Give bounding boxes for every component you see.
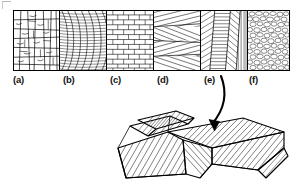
panel-d-cross-stratification[interactable] xyxy=(154,11,201,70)
block-diagram-drawing xyxy=(108,104,293,189)
panel-f-conglomerate[interactable] xyxy=(248,11,289,70)
scan-artifact xyxy=(2,1,11,9)
pattern-panel-strip xyxy=(13,10,290,71)
panel-f-pattern xyxy=(248,11,289,70)
panel-label-c: (c) xyxy=(110,74,121,85)
panel-c-pattern xyxy=(107,11,153,70)
panel-label-d: (d) xyxy=(157,74,169,85)
panel-d-pattern xyxy=(154,11,200,70)
block-face-left-front xyxy=(108,114,216,184)
cross-bedded-dune-block[interactable] xyxy=(108,104,293,189)
panel-a-blocky-irregular[interactable] xyxy=(14,11,60,70)
panel-label-f: (f) xyxy=(249,74,258,85)
panel-label-e: (e) xyxy=(204,74,215,85)
panel-e-herringbone[interactable] xyxy=(201,11,248,70)
panel-label-b: (b) xyxy=(63,74,75,85)
figure-root: (a) (b) (c) (d) (e) (f) xyxy=(0,0,303,189)
panel-a-pattern xyxy=(14,11,59,70)
panel-b-curved-laminae[interactable] xyxy=(60,11,107,70)
panel-e-pattern xyxy=(201,11,247,70)
block-tail-sliver xyxy=(248,138,293,189)
panel-c-brick-masonry[interactable] xyxy=(107,11,154,70)
block-face-right-slope xyxy=(192,118,293,184)
panel-label-row: (a) (b) (c) (d) (e) (f) xyxy=(13,74,296,88)
block-wedge-upper-2 xyxy=(126,104,224,148)
panel-label-a: (a) xyxy=(13,74,24,85)
panel-b-pattern xyxy=(60,11,106,70)
block-outline xyxy=(118,111,288,178)
